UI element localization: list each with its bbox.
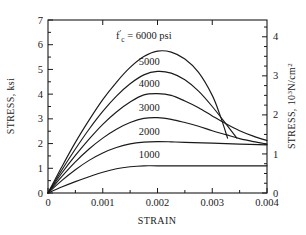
left-tick-label: 1: [38, 163, 43, 174]
y-axis-title: STRESS, ksi: [5, 78, 16, 135]
svg-text:STRESS, 103N/cm2: STRESS, 103N/cm2: [286, 63, 297, 149]
left-tick-label: 7: [38, 15, 43, 26]
curve-label-3000: 3000: [139, 102, 160, 113]
right-tick-label: 1: [273, 149, 278, 160]
curve-label-2000: 2000: [139, 126, 160, 137]
curve-label-5000: 5000: [139, 56, 160, 67]
left-tick-label: 5: [38, 64, 43, 75]
y2-title-main: STRESS, 10: [286, 95, 297, 150]
right-tick-label: 2: [273, 109, 278, 120]
bottom-tick-label: 0: [45, 197, 50, 208]
right-tick-label: 3: [273, 70, 278, 81]
bottom-tick-label: 0.001: [91, 197, 115, 208]
y2-axis-title: STRESS, 103N/cm2: [286, 63, 297, 149]
left-tick-label: 4: [38, 89, 44, 100]
left-tick-label: 3: [38, 113, 43, 124]
y2-title-exp2: 2: [286, 63, 294, 67]
bottom-tick-label: 0.004: [255, 197, 279, 208]
x-axis-title: STRAIN: [138, 215, 177, 226]
curve-label-4000: 4000: [139, 78, 160, 89]
bottom-tick-label: 0.002: [146, 197, 170, 208]
right-tick-label: 4: [273, 31, 279, 42]
stress-strain-chart: 01234567 01234 00.0010.0020.0030.004 f′c…: [0, 0, 306, 235]
y2-title-unit: N/cm: [286, 67, 297, 91]
left-tick-label: 6: [38, 39, 43, 50]
curve-label-1000: 1000: [139, 149, 160, 160]
left-tick-label: 2: [38, 138, 43, 149]
bottom-tick-label: 0.003: [200, 197, 224, 208]
left-tick-label: 0: [38, 188, 43, 199]
fc-equals: = 6000 psi: [125, 30, 172, 41]
chart-canvas: 01234567 01234 00.0010.0020.0030.004 f′c…: [0, 0, 306, 235]
